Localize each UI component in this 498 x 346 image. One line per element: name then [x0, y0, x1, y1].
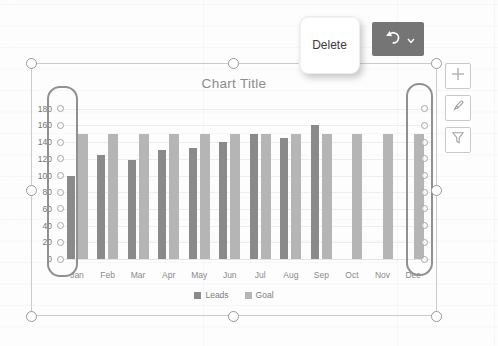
bar-leads-jul[interactable] — [250, 134, 258, 259]
gridline-handle-left — [57, 172, 64, 179]
funnel-icon — [449, 129, 467, 151]
gridline-handle-right — [421, 256, 428, 263]
legend-item-goal[interactable]: Goal — [245, 290, 274, 300]
gridline-handle-left — [57, 189, 64, 196]
gridline-handle-left — [57, 139, 64, 146]
dec-column-highlight-oval — [406, 83, 433, 276]
bar-goal-aug[interactable] — [291, 134, 301, 259]
bar-goal-jun[interactable] — [230, 134, 240, 259]
bar-leads-jun[interactable] — [219, 142, 227, 259]
gridline-handle-left — [57, 105, 64, 112]
plus-icon — [449, 65, 467, 87]
gridline-handle-right — [421, 189, 428, 196]
x-axis-label-jun: Jun — [214, 270, 246, 280]
x-axis-label-apr: Apr — [153, 270, 185, 280]
chevron-down-icon — [407, 30, 415, 48]
chart-filters-button[interactable] — [445, 127, 471, 153]
gridline-handle-right — [421, 139, 428, 146]
x-axis-label-jul: Jul — [244, 270, 276, 280]
undo-arrow-icon — [382, 27, 403, 52]
x-axis-label-oct: Oct — [336, 270, 368, 280]
bar-leads-sep[interactable] — [311, 125, 319, 259]
x-axis-label-may: May — [183, 270, 215, 280]
resize-handle-bottom-left[interactable] — [26, 311, 37, 322]
bar-goal-jul[interactable] — [261, 134, 271, 259]
x-axis-label-mar: Mar — [122, 270, 154, 280]
worksheet-background: Delete Chart Title 020406080100120140160… — [0, 0, 498, 346]
bar-goal-may[interactable] — [200, 134, 210, 259]
bar-goal-apr[interactable] — [169, 134, 179, 259]
x-axis-label-sep: Sep — [305, 270, 337, 280]
chart-elements-button[interactable] — [445, 63, 471, 89]
legend-item-leads[interactable]: Leads — [194, 290, 228, 300]
bar-goal-sep[interactable] — [322, 134, 332, 259]
chart-styles-button[interactable] — [445, 95, 471, 121]
gridline-handle-left — [57, 239, 64, 246]
gridline-handle-left — [57, 205, 64, 212]
bar-goal-oct[interactable] — [352, 134, 362, 259]
gridline-handle-right — [421, 122, 428, 129]
bar-leads-aug[interactable] — [280, 138, 288, 259]
resize-handle-middle-right[interactable] — [431, 185, 442, 196]
paintbrush-icon — [449, 97, 467, 119]
chart-title[interactable]: Chart Title — [31, 76, 437, 91]
bar-goal-nov[interactable] — [383, 134, 393, 259]
gridline-handle-left — [57, 122, 64, 129]
leads-legend-label: Leads — [205, 290, 228, 300]
bar-leads-apr[interactable] — [158, 150, 166, 259]
leads-legend-swatch — [194, 292, 201, 299]
chart-legend[interactable]: Leads Goal — [31, 290, 437, 300]
x-axis-label-aug: Aug — [275, 270, 307, 280]
bar-goal-jan[interactable] — [78, 134, 88, 259]
delete-key-label: Delete — [312, 38, 347, 52]
resize-handle-bottom-right[interactable] — [431, 311, 442, 322]
undo-button[interactable] — [372, 22, 424, 56]
gridline-handle-left — [57, 256, 64, 263]
bar-leads-may[interactable] — [189, 148, 197, 259]
goal-legend-swatch — [245, 292, 252, 299]
goal-legend-label: Goal — [256, 290, 274, 300]
resize-handle-top-center[interactable] — [228, 58, 239, 69]
gridline-handle-right — [421, 239, 428, 246]
gridline-handle-left — [57, 155, 64, 162]
bar-goal-mar[interactable] — [139, 134, 149, 259]
x-axis-label-nov: Nov — [367, 270, 399, 280]
resize-handle-bottom-center[interactable] — [228, 311, 239, 322]
bar-goal-feb[interactable] — [108, 134, 118, 259]
resize-handle-middle-left[interactable] — [26, 185, 37, 196]
resize-handle-top-left[interactable] — [26, 58, 37, 69]
value-axis-highlight-oval — [47, 86, 78, 277]
gridline-handle-right — [421, 172, 428, 179]
delete-key-illustration: Delete — [299, 16, 360, 74]
bar-leads-mar[interactable] — [128, 160, 136, 259]
gridline-handle-left — [57, 222, 64, 229]
x-axis-label-feb: Feb — [92, 270, 124, 280]
bar-leads-feb[interactable] — [97, 155, 105, 259]
resize-handle-top-right[interactable] — [431, 58, 442, 69]
